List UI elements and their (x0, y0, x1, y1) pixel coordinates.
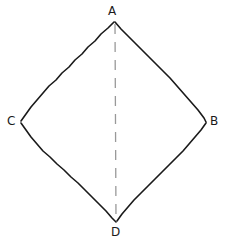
edge-bd (117, 123, 206, 221)
diagonal-ad (115, 24, 116, 220)
edge-cd (21, 123, 116, 222)
vertex-label-c: C (7, 115, 15, 127)
vertex-label-b: B (210, 115, 218, 127)
vertex-label-d: D (111, 226, 120, 238)
edge-ab (115, 22, 206, 122)
figure-canvas (0, 0, 225, 242)
edge-ac (21, 22, 114, 121)
vertex-label-a: A (108, 5, 116, 17)
geometry-figure: A B C D (0, 0, 225, 242)
